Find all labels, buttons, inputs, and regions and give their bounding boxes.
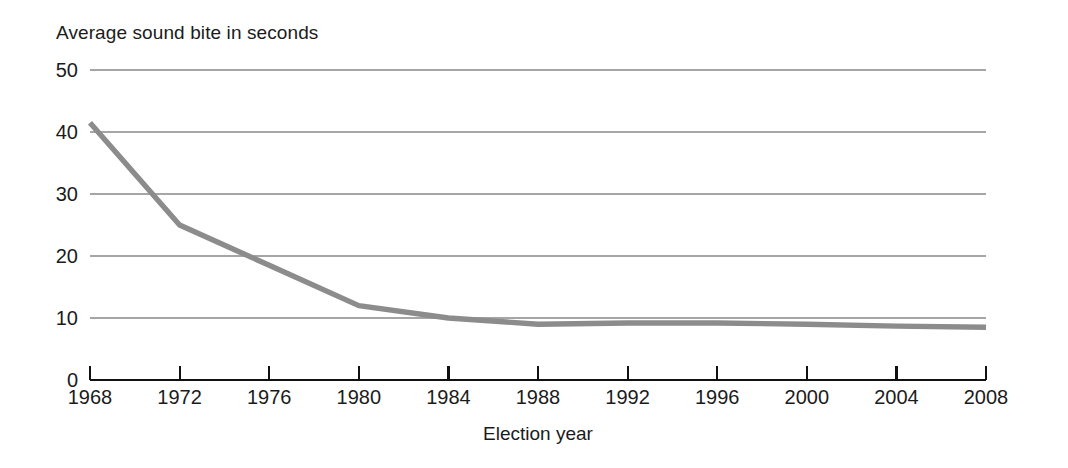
ytick-label-30: 30 (56, 183, 78, 205)
xtick-label-1988: 1988 (516, 386, 561, 408)
xtick-label-2008: 2008 (964, 386, 1009, 408)
ytick-label-10: 10 (56, 307, 78, 329)
chart-figure: Average sound bite in seconds 50 40 30 2… (0, 0, 1068, 468)
xtick-label-1984: 1984 (426, 386, 471, 408)
ytick-label-50: 50 (56, 59, 78, 81)
x-axis-group (90, 366, 986, 380)
line-chart-plot: 50 40 30 20 10 0 1968 1972 (0, 0, 1068, 468)
y-axis-labels: 50 40 30 20 10 0 (56, 59, 78, 391)
xtick-label-1972: 1972 (157, 386, 202, 408)
xtick-label-1996: 1996 (695, 386, 740, 408)
gridlines-group (90, 70, 986, 318)
xtick-label-1976: 1976 (247, 386, 292, 408)
xtick-label-1980: 1980 (337, 386, 382, 408)
ytick-label-20: 20 (56, 245, 78, 267)
data-series-line (90, 123, 986, 328)
xtick-label-1992: 1992 (605, 386, 650, 408)
xtick-label-2004: 2004 (874, 386, 919, 408)
xtick-label-1968: 1968 (68, 386, 113, 408)
xtick-label-2000: 2000 (785, 386, 830, 408)
x-axis-labels: 1968 1972 1976 1980 1984 1988 1992 1996 … (68, 386, 1009, 408)
x-axis-title: Election year (483, 423, 594, 444)
ytick-label-40: 40 (56, 121, 78, 143)
